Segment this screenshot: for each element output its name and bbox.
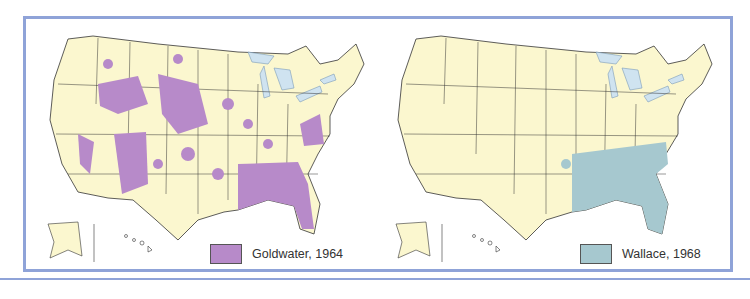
- legend-label-goldwater: Goldwater, 1964: [252, 247, 343, 261]
- goldwater-map: [38, 24, 368, 264]
- wallace-map: [386, 24, 716, 264]
- legend-label-wallace: Wallace, 1968: [622, 247, 701, 261]
- bottom-divider: [0, 278, 750, 280]
- legend-swatch-goldwater: [210, 244, 242, 264]
- legend-goldwater: Goldwater, 1964: [210, 244, 343, 264]
- legend-wallace: Wallace, 1968: [580, 244, 701, 264]
- legend-swatch-wallace: [580, 244, 612, 264]
